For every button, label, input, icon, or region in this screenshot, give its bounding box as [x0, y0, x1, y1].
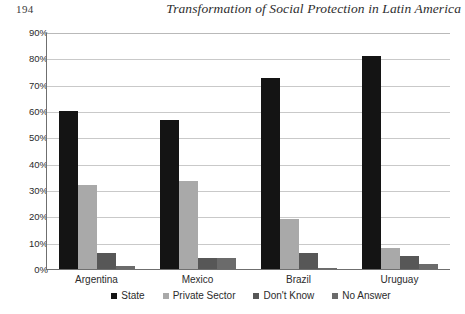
bar [78, 185, 97, 269]
bar [198, 258, 217, 269]
bar [160, 120, 179, 269]
bars [362, 33, 438, 269]
bar [97, 253, 116, 269]
bar [179, 181, 198, 269]
legend-label: Private Sector [173, 290, 236, 301]
bar [59, 111, 78, 269]
bar-group [148, 33, 249, 269]
x-axis-category-label: Uruguay [349, 274, 450, 285]
page-header: 194 Transformation of Social Protection … [0, 0, 465, 24]
y-axis-tick-label: 10% [4, 239, 48, 249]
chart-legend: StatePrivate SectorDon't KnowNo Answer [46, 290, 456, 301]
page-folio: 194 [16, 3, 34, 15]
legend-label: No Answer [342, 290, 390, 301]
legend-swatch-icon [332, 293, 338, 299]
bar [280, 219, 299, 269]
bar [217, 258, 236, 269]
legend-item: State [111, 290, 144, 301]
legend-swatch-icon [111, 293, 117, 299]
bar-group [47, 33, 148, 269]
bar [116, 266, 135, 269]
x-axis-category-label: Mexico [147, 274, 248, 285]
legend-swatch-icon [163, 293, 169, 299]
x-axis-category-label: Argentina [46, 274, 147, 285]
bar [299, 253, 318, 269]
bar [400, 256, 419, 269]
y-axis-tick-label: 80% [4, 54, 48, 64]
legend-label: State [121, 290, 144, 301]
legend-item: Private Sector [163, 290, 236, 301]
legend-label: Don't Know [263, 290, 314, 301]
plot-area [46, 33, 450, 270]
y-axis-tick-label: 0% [4, 265, 48, 275]
legend-swatch-icon [253, 293, 259, 299]
x-axis-category-label: Brazil [248, 274, 349, 285]
x-axis-category-labels: ArgentinaMexicoBrazilUruguay [46, 274, 450, 285]
y-axis-tick-label: 70% [4, 81, 48, 91]
bar [261, 78, 280, 269]
y-axis-tick-label: 60% [4, 107, 48, 117]
bar [381, 248, 400, 269]
bar [419, 264, 438, 269]
bar-groups [47, 33, 450, 269]
y-axis-tick-label: 50% [4, 133, 48, 143]
bars [160, 33, 236, 269]
y-axis-tick-label: 30% [4, 186, 48, 196]
running-title: Transformation of Social Protection in L… [166, 1, 461, 17]
legend-item: No Answer [332, 290, 390, 301]
legend-item: Don't Know [253, 290, 314, 301]
bars [261, 33, 337, 269]
y-axis-tick-label: 20% [4, 212, 48, 222]
bar-group [349, 33, 450, 269]
y-axis-tick-label: 90% [4, 28, 48, 38]
bars [59, 33, 135, 269]
bar [362, 56, 381, 269]
y-axis-tick-label: 40% [4, 160, 48, 170]
bar-chart-figure: 90%80%70%60%50%40%30%20%10%0% ArgentinaM… [0, 24, 465, 314]
bar [318, 268, 337, 269]
bar-group [249, 33, 350, 269]
